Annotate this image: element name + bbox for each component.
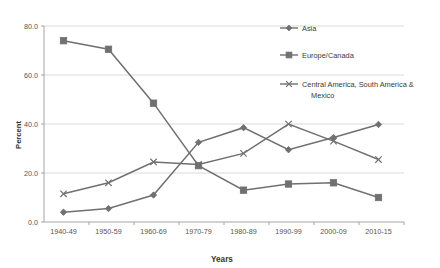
y-tick-label: 40.0 bbox=[24, 120, 38, 129]
legend-item-3: Central America, South America & bbox=[280, 80, 414, 89]
marker-diamond bbox=[375, 121, 381, 127]
y-tick-label: 80.0 bbox=[24, 22, 38, 31]
y-axis-tick-labels: 0.020.040.060.080.0 bbox=[24, 22, 38, 227]
x-axis-tick-labels: 1940-491950-591960-691970-791980-891990-… bbox=[50, 222, 404, 236]
marker-square bbox=[330, 180, 336, 186]
legend-label: Central America, South America & bbox=[302, 80, 414, 89]
marker-square bbox=[150, 100, 156, 106]
marker-square bbox=[60, 38, 66, 44]
marker-square bbox=[240, 187, 246, 193]
marker-square bbox=[286, 52, 292, 58]
legend-item-2: Europe/Canada bbox=[280, 51, 355, 60]
series-asia bbox=[60, 121, 381, 215]
x-tick-label: 1970-79 bbox=[185, 227, 211, 236]
y-tick-label: 20.0 bbox=[24, 169, 38, 178]
legend-item-1: Asia bbox=[280, 24, 317, 33]
marker-cross bbox=[375, 156, 381, 162]
marker-diamond bbox=[105, 205, 111, 211]
series-europe-canada bbox=[60, 38, 381, 201]
x-tick-label: 1950-59 bbox=[95, 227, 121, 236]
marker-diamond bbox=[285, 147, 291, 153]
x-tick-label: 2000-09 bbox=[320, 227, 346, 236]
x-tick-label: 1980-89 bbox=[230, 227, 256, 236]
line-chart: 0.020.040.060.080.0 1940-491950-591960-6… bbox=[0, 0, 440, 268]
marker-square bbox=[375, 194, 381, 200]
x-tick-label: 1940-49 bbox=[50, 227, 76, 236]
marker-diamond bbox=[60, 209, 66, 215]
series-line bbox=[64, 41, 379, 198]
marker-diamond bbox=[240, 124, 246, 130]
x-tick-label: 1990-99 bbox=[275, 227, 301, 236]
y-axis-label: Percent bbox=[14, 121, 23, 149]
chart-legend: AsiaEurope/CanadaCentral America, South … bbox=[280, 24, 414, 100]
legend-label-wrap: Mexico bbox=[311, 91, 334, 100]
marker-square bbox=[105, 46, 111, 52]
data-series-group bbox=[60, 38, 381, 216]
x-tick-label: 2010-15 bbox=[365, 227, 391, 236]
y-tick-label: 60.0 bbox=[24, 71, 38, 80]
chart-canvas: 0.020.040.060.080.0 1940-491950-591960-6… bbox=[0, 0, 440, 268]
x-axis-label: Years bbox=[211, 255, 233, 264]
legend-label: Europe/Canada bbox=[302, 51, 355, 60]
y-tick-label: 0.0 bbox=[28, 218, 38, 227]
x-tick-label: 1960-69 bbox=[140, 227, 166, 236]
marker-square bbox=[285, 181, 291, 187]
legend-label: Asia bbox=[302, 24, 317, 33]
